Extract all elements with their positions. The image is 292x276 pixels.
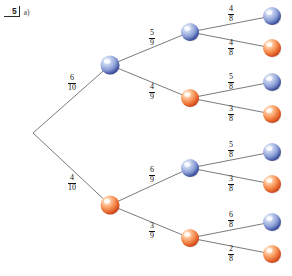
node-counter-blue [263, 73, 281, 92]
fraction-denominator: 10 [68, 184, 76, 193]
node-circle [263, 39, 281, 57]
fraction-denominator: 8 [228, 151, 234, 160]
node-counter-orange [181, 89, 199, 108]
node-counter-orange [101, 196, 120, 215]
node-highlight [266, 10, 272, 15]
node-highlight [184, 162, 190, 167]
fraction-denominator: 9 [149, 39, 155, 48]
node-counter-blue [101, 56, 120, 75]
node-highlight [104, 199, 110, 204]
branch-line-group [33, 16, 272, 254]
branch-probability: 38 [228, 175, 234, 193]
branch-probability: 48 [228, 39, 234, 57]
fraction-denominator: 8 [228, 255, 234, 264]
fraction-denominator: 9 [149, 93, 155, 102]
fraction-denominator: 8 [228, 83, 234, 92]
node-circle [263, 175, 281, 193]
node-counter-orange [263, 105, 281, 124]
node-circle [181, 229, 199, 247]
branch-probability: 39 [149, 222, 155, 240]
node-circle [263, 7, 281, 25]
node-circle [263, 143, 281, 161]
branch-probability: 59 [149, 29, 155, 47]
node-highlight [266, 178, 272, 183]
branch-probability: 38 [228, 105, 234, 123]
branch-probability: 68 [228, 211, 234, 229]
branch-line [33, 133, 110, 205]
node-counter-blue [263, 213, 281, 231]
node-highlight [184, 232, 190, 237]
fraction-denominator: 10 [68, 84, 76, 93]
node-highlight [266, 248, 272, 253]
fraction-denominator: 8 [228, 115, 234, 124]
branch-probability: 49 [149, 83, 155, 101]
fraction-denominator: 9 [149, 232, 155, 241]
branch-probability: 69 [149, 166, 155, 184]
branch-probability: 58 [228, 141, 234, 159]
node-circle [263, 245, 281, 263]
node-circle [263, 73, 281, 91]
branch-probability: 48 [228, 5, 234, 23]
probability-tree-diagram [0, 0, 292, 276]
node-highlight [104, 59, 110, 64]
branch-probability: 610 [68, 74, 76, 92]
branch-probability: 410 [68, 174, 76, 192]
node-circle [181, 159, 199, 177]
node-circle [101, 56, 120, 75]
node-circle [101, 196, 120, 215]
node-highlight [266, 42, 272, 47]
fraction-denominator: 8 [228, 185, 234, 194]
fraction-denominator: 8 [228, 221, 234, 230]
node-highlight [266, 108, 272, 113]
node-counter-blue [181, 159, 199, 177]
node-counter-orange [263, 245, 281, 264]
node-highlight [184, 26, 190, 31]
node-circle [181, 23, 199, 41]
node-counter-orange [263, 39, 281, 58]
branch-probability: 58 [228, 73, 234, 91]
fraction-denominator: 8 [228, 15, 234, 24]
node-counter-orange [181, 229, 199, 247]
tree-svg [0, 0, 292, 276]
node-counter-blue [263, 143, 281, 161]
fraction-denominator: 8 [228, 49, 234, 58]
node-circle [181, 89, 199, 107]
node-circle [263, 213, 281, 231]
fraction-denominator: 9 [149, 176, 155, 185]
node-highlight [266, 216, 272, 221]
node-highlight [266, 146, 272, 151]
node-counter-blue [263, 7, 281, 26]
node-highlight [266, 76, 272, 81]
node-highlight [184, 92, 190, 97]
node-counter-orange [263, 175, 281, 193]
branch-probability: 28 [228, 245, 234, 263]
node-circle [263, 105, 281, 123]
node-counter-blue [181, 23, 199, 42]
